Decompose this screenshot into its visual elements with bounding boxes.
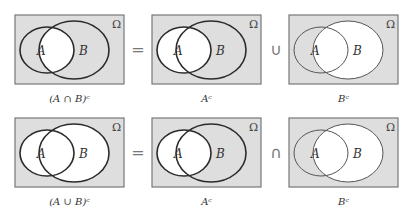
equals-operator: = — [131, 143, 144, 162]
set-b-label: B — [352, 44, 362, 58]
universe-label: Ω — [386, 121, 395, 134]
set-b-label: B — [78, 44, 88, 58]
venn-diagram: ABΩ(A ∩ B)ᶜ — [15, 15, 124, 104]
venn-diagram: ABΩAᶜ — [152, 118, 261, 207]
universe-label: Ω — [249, 18, 258, 31]
venn-diagram: ABΩBᶜ — [289, 118, 398, 207]
set-b-label: B — [215, 147, 225, 161]
set-a-label: A — [173, 147, 183, 161]
row-de-morgan-union: ABΩ(A ∪ B)ᶜABΩAᶜABΩBᶜ=∩ — [15, 118, 398, 207]
diagram-caption: Aᶜ — [200, 93, 212, 104]
diagram-caption: Bᶜ — [337, 93, 349, 104]
venn-diagram: ABΩ(A ∪ B)ᶜ — [15, 118, 124, 207]
set-a-label: A — [173, 44, 183, 58]
diagram-caption: (A ∩ B)ᶜ — [49, 93, 90, 104]
diagram-caption: Bᶜ — [337, 196, 349, 207]
venn-diagram: ABΩAᶜ — [152, 15, 261, 104]
intersection-operator: ∩ — [270, 143, 282, 162]
universe-label: Ω — [386, 18, 395, 31]
equals-operator: = — [131, 40, 144, 59]
set-a-label: A — [310, 147, 320, 161]
set-a-label: A — [36, 44, 46, 58]
venn-diagram: ABΩBᶜ — [289, 15, 398, 104]
diagram-caption: Aᶜ — [200, 196, 212, 207]
diagram-caption: (A ∪ B)ᶜ — [49, 196, 90, 207]
set-b-label: B — [352, 147, 362, 161]
universe-label: Ω — [112, 121, 121, 134]
universe-label: Ω — [112, 18, 121, 31]
row-de-morgan-intersection: ABΩ(A ∩ B)ᶜABΩAᶜABΩBᶜ=∪ — [15, 15, 398, 104]
set-a-label: A — [310, 44, 320, 58]
set-a-label: A — [36, 147, 46, 161]
set-b-label: B — [78, 147, 88, 161]
set-b-label: B — [215, 44, 225, 58]
de-morgan-venn-diagrams: ABΩ(A ∩ B)ᶜABΩAᶜABΩBᶜ=∪ABΩ(A ∪ B)ᶜABΩAᶜA… — [0, 0, 413, 215]
union-operator: ∪ — [270, 40, 282, 59]
universe-label: Ω — [249, 121, 258, 134]
